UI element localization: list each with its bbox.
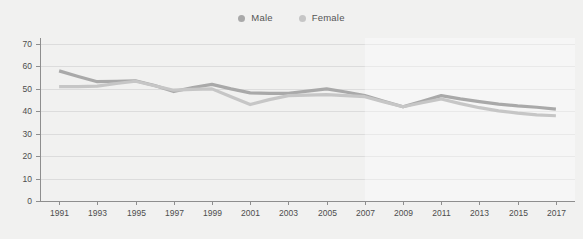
y-tick-label: 10: [23, 174, 33, 184]
y-tick-label: 40: [23, 106, 33, 116]
x-tick-label: 1993: [88, 208, 107, 218]
x-tick-label: 1995: [127, 208, 146, 218]
x-tick-label: 2009: [394, 208, 413, 218]
y-tick-label: 50: [23, 84, 33, 94]
x-tick-label: 2015: [509, 208, 528, 218]
y-tick-label: 70: [23, 39, 33, 49]
x-tick-label: 2017: [547, 208, 566, 218]
x-tick-label: 1997: [165, 208, 184, 218]
y-axis: 010203040506070: [23, 38, 41, 206]
recent-period-band: [365, 38, 575, 201]
x-tick-label: 2005: [318, 208, 337, 218]
plot-area: 010203040506070 199119931995199719992001…: [0, 0, 583, 239]
x-tick-label: 2001: [241, 208, 260, 218]
x-tick-label: 1999: [203, 208, 222, 218]
x-tick-label: 1991: [50, 208, 69, 218]
y-tick-label: 0: [27, 196, 32, 206]
recent-period-band: [365, 38, 575, 201]
x-axis: 1991199319951997199920012003200520072009…: [40, 201, 575, 218]
x-tick-label: 2003: [279, 208, 298, 218]
y-tick-label: 60: [23, 61, 33, 71]
y-tick-label: 30: [23, 129, 33, 139]
x-tick-label: 2007: [356, 208, 375, 218]
x-tick-label: 2013: [470, 208, 489, 218]
x-tick-label: 2011: [432, 208, 451, 218]
line-chart: Male Female 010203040506070 199119931995…: [0, 0, 583, 239]
y-tick-label: 20: [23, 151, 33, 161]
